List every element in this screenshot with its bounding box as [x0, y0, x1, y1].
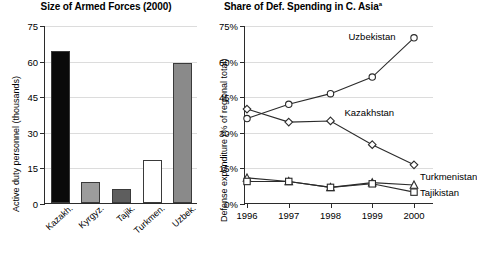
bar-kyrgyz[interactable]: [81, 182, 100, 203]
y-axis-tick: [40, 133, 45, 134]
bar-turkmen[interactable]: [143, 160, 162, 203]
bar-uzbek[interactable]: [173, 63, 192, 203]
line-chart-plot-area: 0%15%30%45%60%75%19961997199819992000Uzb…: [244, 26, 433, 204]
data-point-kazakhstan[interactable]: [368, 141, 376, 149]
bar-chart-y-axis-label: Active duty personnel (thousands): [11, 76, 21, 212]
x-axis-tick-label: Kazakh.: [44, 203, 75, 232]
data-point-kazakhstan[interactable]: [285, 118, 293, 126]
y-axis-tick-label: 15: [27, 163, 38, 174]
series-label-tajikistan: Tajikistan: [420, 187, 459, 198]
data-point-tajikistan[interactable]: [286, 178, 292, 184]
bar-chart-panel: Size of Armed Forces (2000) Active duty …: [0, 0, 212, 253]
x-axis-tick-label: 1999: [362, 210, 383, 221]
y-axis-tick-label: 15%: [219, 163, 238, 174]
y-axis-tick-label: 45: [27, 92, 38, 103]
y-axis-tick: [40, 97, 45, 98]
line-chart-title-text: Share of Def. Spending in C. Asia: [224, 1, 379, 12]
y-axis-tick-label: 45%: [219, 92, 238, 103]
data-point-kazakhstan[interactable]: [327, 117, 335, 125]
y-axis-tick-label: 75%: [219, 21, 238, 32]
x-axis-tick-label: 1998: [320, 210, 341, 221]
series-label-uzbekistan: Uzbekistan: [349, 31, 396, 42]
line-chart-y-axis-label: Defense expenditure (% of regional total…: [219, 58, 229, 222]
y-axis-tick: [240, 204, 245, 205]
data-point-uzbekistan[interactable]: [369, 74, 375, 80]
x-axis-tick-label: Turkmen.: [132, 203, 167, 236]
bar-kazakh[interactable]: [51, 51, 70, 203]
y-axis-tick-label: 60: [27, 56, 38, 67]
x-axis-tick-label: Tajik.: [114, 203, 136, 224]
y-axis-tick: [40, 62, 45, 63]
gridline: [45, 26, 197, 27]
y-axis-tick-label: 30: [27, 127, 38, 138]
data-point-tajikistan[interactable]: [244, 178, 250, 184]
x-axis-tick-label: Kyrgyz.: [77, 203, 106, 231]
y-axis-tick-label: 60%: [219, 56, 238, 67]
bar-chart-plot-area: 01530456075Kazakh.Kyrgyz.Tajik.Turkmen.U…: [44, 26, 197, 204]
data-point-uzbekistan[interactable]: [327, 90, 333, 96]
data-point-uzbekistan[interactable]: [411, 35, 417, 41]
data-point-tajikistan[interactable]: [327, 184, 333, 190]
line-series-group: [245, 26, 434, 204]
y-axis-tick-label: 0: [33, 199, 38, 210]
data-point-tajikistan[interactable]: [369, 181, 375, 187]
x-axis-tick-label: Uzbek.: [170, 203, 198, 229]
x-axis-tick-label: 2000: [403, 210, 424, 221]
y-axis-tick: [40, 168, 45, 169]
x-axis-tick-label: 1997: [278, 210, 299, 221]
bar-tajik[interactable]: [112, 189, 131, 203]
series-label-kazakhstan: Kazakhstan: [345, 107, 395, 118]
data-point-tajikistan[interactable]: [411, 189, 417, 195]
series-label-turkmenistan: Turkmenistan: [420, 171, 477, 182]
y-axis-tick: [40, 26, 45, 27]
x-axis-tick-label: 1996: [236, 210, 257, 221]
y-axis-tick: [40, 204, 45, 205]
data-point-uzbekistan[interactable]: [286, 101, 292, 107]
line-chart-title: Share of Def. Spending in C. Asiaa: [212, 1, 382, 12]
data-point-kazakhstan[interactable]: [410, 161, 418, 169]
y-axis-tick-label: 0%: [224, 199, 238, 210]
data-point-uzbekistan[interactable]: [244, 115, 250, 121]
bar-chart-title: Size of Armed Forces (2000): [0, 1, 212, 12]
y-axis-tick-label: 75: [27, 21, 38, 32]
line-chart-title-superscript: a: [379, 1, 382, 7]
data-point-kazakhstan[interactable]: [243, 105, 251, 113]
y-axis-tick-label: 30%: [219, 127, 238, 138]
